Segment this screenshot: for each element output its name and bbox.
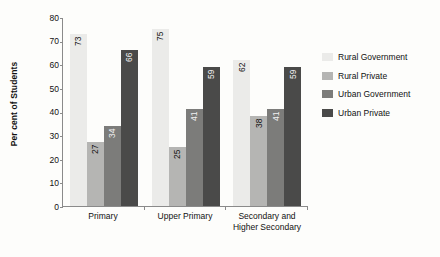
x-axis-label-line: Higher Secondary bbox=[226, 222, 308, 233]
bar[interactable]: 41 bbox=[267, 109, 284, 206]
bar-slot: 73 bbox=[70, 18, 87, 206]
bar-value-label: 41 bbox=[190, 112, 199, 121]
x-axis-label-line: Secondary and bbox=[226, 211, 308, 222]
legend-item-label: Rural Private bbox=[338, 72, 387, 81]
bar-slot: 62 bbox=[233, 18, 250, 206]
x-axis-label-line: Primary bbox=[62, 211, 144, 222]
bar[interactable]: 73 bbox=[70, 34, 87, 206]
bar-slot: 41 bbox=[267, 18, 284, 206]
x-axis-label: Upper Primary bbox=[144, 211, 226, 233]
bar-value-label: 38 bbox=[254, 119, 263, 128]
legend-item[interactable]: Rural Government bbox=[322, 53, 410, 62]
bar[interactable]: 38 bbox=[250, 116, 267, 206]
bar-slot: 34 bbox=[104, 18, 121, 206]
bar-value-label: 75 bbox=[156, 31, 165, 40]
bar[interactable]: 34 bbox=[104, 126, 121, 206]
x-axis-label: Secondary andHigher Secondary bbox=[226, 211, 308, 233]
bar-value-label: 73 bbox=[74, 36, 83, 45]
y-axis-title: Per cent of Students bbox=[2, 0, 26, 207]
bar[interactable]: 25 bbox=[169, 147, 186, 206]
bar[interactable]: 27 bbox=[87, 142, 104, 206]
bar-slot: 27 bbox=[87, 18, 104, 206]
legend-swatch-icon bbox=[322, 53, 333, 61]
bar-slot: 38 bbox=[250, 18, 267, 206]
bar[interactable]: 59 bbox=[284, 67, 301, 206]
legend-item[interactable]: Urban Government bbox=[322, 90, 410, 99]
legend-item[interactable]: Urban Private bbox=[322, 109, 410, 118]
x-axis-labels: PrimaryUpper PrimarySecondary andHigher … bbox=[62, 211, 308, 233]
bar[interactable]: 66 bbox=[121, 50, 138, 206]
y-axis-title-text: Per cent of Students bbox=[9, 61, 19, 146]
bar-slot: 25 bbox=[169, 18, 186, 206]
chart-legend: Rural GovernmentRural PrivateUrban Gover… bbox=[322, 53, 410, 117]
bar-slot: 59 bbox=[203, 18, 220, 206]
bar-value-label: 27 bbox=[91, 145, 100, 154]
bar-group: 62384159 bbox=[226, 18, 308, 206]
bar[interactable]: 75 bbox=[152, 29, 169, 206]
legend-swatch-icon bbox=[322, 72, 333, 80]
bar-slot: 75 bbox=[152, 18, 169, 206]
plot-area: 01020304050607080 7327346675254159623841… bbox=[62, 18, 308, 207]
x-axis-tick-mark bbox=[144, 206, 145, 210]
bar-value-label: 59 bbox=[207, 69, 216, 78]
bar-value-label: 41 bbox=[271, 112, 280, 121]
bar-groups: 732734667525415962384159 bbox=[63, 18, 308, 206]
bar-slot: 59 bbox=[284, 18, 301, 206]
legend-swatch-icon bbox=[322, 109, 333, 117]
x-axis-label-line: Upper Primary bbox=[144, 211, 226, 222]
legend-item[interactable]: Rural Private bbox=[322, 72, 410, 81]
bar-slot: 41 bbox=[186, 18, 203, 206]
bar-value-label: 66 bbox=[125, 53, 134, 62]
bar-slot: 66 bbox=[121, 18, 138, 206]
bar[interactable]: 41 bbox=[186, 109, 203, 206]
legend-item-label: Rural Government bbox=[338, 53, 407, 62]
bar-value-label: 62 bbox=[237, 62, 246, 71]
legend-item-label: Urban Government bbox=[338, 90, 410, 99]
bar[interactable]: 62 bbox=[233, 60, 250, 206]
bar-group: 75254159 bbox=[145, 18, 227, 206]
legend-item-label: Urban Private bbox=[338, 109, 390, 118]
bar-chart: Per cent of Students 01020304050607080 7… bbox=[0, 0, 440, 257]
bar[interactable]: 59 bbox=[203, 67, 220, 206]
y-axis-tick-mark bbox=[60, 207, 63, 208]
bar-value-label: 25 bbox=[173, 149, 182, 158]
x-axis-tick-mark bbox=[307, 206, 308, 210]
x-axis-tick-mark bbox=[225, 206, 226, 210]
bar-value-label: 34 bbox=[108, 128, 117, 137]
legend-swatch-icon bbox=[322, 90, 333, 98]
bar-group: 73273466 bbox=[63, 18, 145, 206]
bar-value-label: 59 bbox=[288, 69, 297, 78]
x-axis-label: Primary bbox=[62, 211, 144, 233]
